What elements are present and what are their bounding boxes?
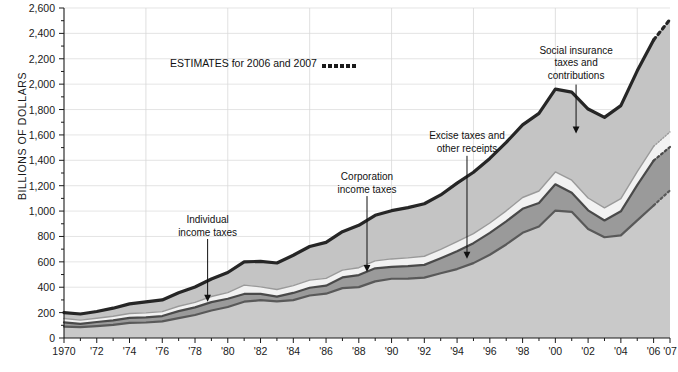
x-tick-label: '78	[188, 345, 202, 357]
y-tick-label: 600	[0, 256, 55, 268]
y-tick-label: 400	[0, 281, 55, 293]
annotation-label-excise_other: Excise taxes and other receipts	[387, 130, 547, 155]
x-tick-label: '92	[417, 345, 431, 357]
x-tick-label: '02	[581, 345, 595, 357]
x-tick-label: '06	[647, 345, 661, 357]
annotation-label-individual: Individual income taxes	[128, 214, 288, 239]
y-tick-label: 1,800	[0, 104, 55, 116]
x-tick-label: '84	[286, 345, 300, 357]
y-tick-label: 2,400	[0, 27, 55, 39]
y-tick-label: 2,000	[0, 78, 55, 90]
x-tick-label: '88	[352, 345, 366, 357]
y-tick-label: 200	[0, 307, 55, 319]
x-tick-label: '04	[614, 345, 628, 357]
y-tick-label: 1,200	[0, 180, 55, 192]
x-tick-label: '90	[385, 345, 399, 357]
y-tick-label: 800	[0, 230, 55, 242]
estimates-legend-label: ESTIMATES for 2006 and 2007	[170, 57, 317, 69]
y-tick-label: 2,200	[0, 53, 55, 65]
x-tick-label: 1970	[52, 345, 75, 357]
y-tick-label: 1,400	[0, 154, 55, 166]
receipts-area-chart: BILLIONS OF DOLLARS 02004006008001,0001,…	[0, 0, 678, 372]
x-tick-label: '76	[155, 345, 169, 357]
annotation-label-social_insurance: Social insurance taxes and contributions	[496, 45, 656, 83]
y-tick-label: 0	[0, 332, 55, 344]
x-tick-label: '07	[663, 345, 677, 357]
x-tick-label: '74	[123, 345, 137, 357]
y-tick-label: 1,600	[0, 129, 55, 141]
estimates-dotted-swatch	[322, 58, 358, 70]
x-tick-label: '72	[90, 345, 104, 357]
x-tick-label: '00	[549, 345, 563, 357]
x-tick-label: '94	[450, 345, 464, 357]
annotation-label-corporation: Corporation income taxes	[287, 171, 447, 196]
x-tick-label: '96	[483, 345, 497, 357]
x-tick-label: '86	[319, 345, 333, 357]
y-tick-label: 2,600	[0, 2, 55, 14]
estimates-legend: ESTIMATES for 2006 and 2007	[170, 57, 358, 70]
x-tick-label: '82	[254, 345, 268, 357]
x-tick-label: '98	[516, 345, 530, 357]
y-tick-label: 1,000	[0, 205, 55, 217]
x-tick-label: '80	[221, 345, 235, 357]
